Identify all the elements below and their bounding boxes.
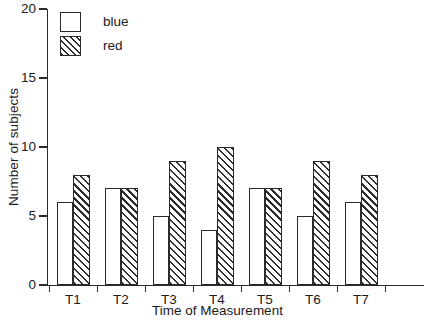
bar-t2-blue — [105, 188, 122, 285]
legend-label-blue: blue — [103, 15, 129, 29]
legend: blue red — [60, 11, 129, 59]
bar-t3-blue — [153, 216, 170, 285]
x-tick-label: T4 — [193, 292, 241, 307]
bar-t5-blue — [249, 188, 266, 285]
y-tick-label: 20 — [0, 2, 36, 16]
bar-t7-blue — [345, 202, 362, 285]
bar-t7-red — [361, 175, 378, 285]
y-tick-label: 15 — [0, 71, 36, 85]
bar-t5-red — [265, 188, 282, 285]
x-tick-label: T7 — [337, 292, 385, 307]
x-tick-label: T3 — [145, 292, 193, 307]
bar-t3-red — [169, 161, 186, 285]
x-axis-line — [47, 285, 424, 286]
bar-t1-blue — [57, 202, 74, 285]
y-tick-mark — [39, 146, 47, 147]
bar-t4-red — [217, 147, 234, 285]
bar-t4-blue — [201, 230, 218, 285]
y-tick-label: 10 — [0, 140, 36, 154]
x-tick-label: T6 — [289, 292, 337, 307]
legend-swatch-red-icon — [60, 36, 81, 56]
y-tick-mark — [39, 284, 47, 285]
bar-t6-blue — [297, 216, 314, 285]
x-tick-label: T1 — [49, 292, 97, 307]
x-tick-mark — [385, 285, 386, 292]
x-tick-mark — [97, 285, 98, 292]
x-tick-mark — [289, 285, 290, 292]
legend-item-red: red — [60, 35, 129, 57]
x-tick-mark — [337, 285, 338, 292]
y-tick-label: 5 — [0, 209, 36, 223]
x-tick-mark — [49, 285, 50, 292]
y-tick-mark — [39, 8, 47, 9]
y-tick-label: 0 — [0, 278, 36, 292]
legend-swatch-blue-icon — [60, 12, 81, 32]
bar-chart-figure: Number of subjects Time of Measurement 0… — [0, 0, 428, 324]
y-tick-mark — [39, 77, 47, 78]
x-tick-mark — [145, 285, 146, 292]
legend-item-blue: blue — [60, 11, 129, 33]
legend-label-red: red — [103, 39, 123, 53]
x-tick-label: T5 — [241, 292, 289, 307]
bar-t6-red — [313, 161, 330, 285]
y-tick-mark — [39, 215, 47, 216]
bar-t2-red — [121, 188, 138, 285]
x-tick-mark — [241, 285, 242, 292]
bar-t1-red — [73, 175, 90, 285]
x-tick-mark — [193, 285, 194, 292]
x-tick-label: T2 — [97, 292, 145, 307]
